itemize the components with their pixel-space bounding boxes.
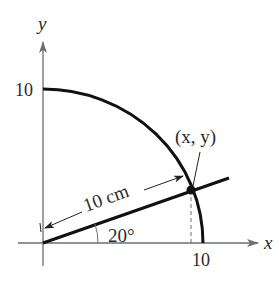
x-axis-label: x	[263, 232, 273, 253]
ray-20-degrees	[43, 178, 229, 243]
y-axis-label: y	[36, 13, 47, 34]
diagram-canvas: y x 10 10 (x, y) 10 cm 20°	[0, 0, 279, 287]
length-label: 10 cm	[80, 180, 132, 216]
point-xy	[187, 186, 196, 195]
dimension-arrow-left	[45, 212, 82, 228]
quarter-circle-arc	[43, 89, 203, 243]
y-tick-10: 10	[15, 80, 33, 100]
point-label-text: (x, y)	[175, 126, 216, 148]
angle-label: 20°	[108, 225, 135, 246]
point-leader-line	[193, 152, 200, 186]
point-label: (x, y)	[175, 126, 216, 148]
angle-arc	[95, 224, 98, 243]
dimension-arrow-right	[144, 176, 183, 190]
x-tick-10: 10	[192, 250, 210, 270]
dimension-tick	[40, 223, 41, 232]
